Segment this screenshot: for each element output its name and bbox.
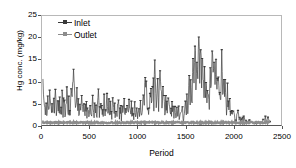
legend-marker-inlet	[58, 18, 72, 28]
legend-marker-outlet	[58, 30, 72, 40]
inlet-markers	[45, 37, 271, 123]
chart-legend: Inlet Outlet	[58, 17, 128, 41]
x-axis-title: Period	[41, 148, 282, 158]
hg-concentration-chart: Hg conc. (mg/kg) 0510152025 050010001500…	[0, 0, 296, 168]
x-tick-label: 2500	[262, 132, 296, 141]
legend-label-outlet: Outlet	[72, 30, 97, 40]
x-tick-label: 0	[21, 132, 61, 141]
legend-label-inlet: Inlet	[72, 18, 90, 28]
y-tick-label: 15	[0, 55, 37, 63]
series-outlet	[42, 122, 270, 124]
x-tick-mark	[234, 126, 235, 129]
outlet-line	[42, 122, 270, 124]
y-tick-label: 0	[0, 122, 37, 130]
x-tick-mark	[137, 126, 138, 129]
inlet-line	[43, 37, 271, 124]
y-tick-label: 25	[0, 11, 37, 19]
x-tick-mark	[41, 126, 42, 129]
y-tick-label: 5	[0, 100, 37, 108]
x-tick-mark	[186, 126, 187, 129]
x-tick-mark	[282, 126, 283, 129]
x-tick-label: 500	[69, 132, 109, 141]
legend-item-inlet: Inlet	[58, 17, 128, 29]
legend-item-outlet: Outlet	[58, 29, 128, 41]
series-inlet	[43, 37, 271, 124]
x-tick-mark	[89, 126, 90, 129]
x-tick-label: 1000	[117, 132, 157, 141]
y-tick-label: 10	[0, 78, 37, 86]
y-tick-label: 20	[0, 33, 37, 41]
x-tick-label: 2000	[214, 132, 254, 141]
x-tick-label: 1500	[166, 132, 206, 141]
